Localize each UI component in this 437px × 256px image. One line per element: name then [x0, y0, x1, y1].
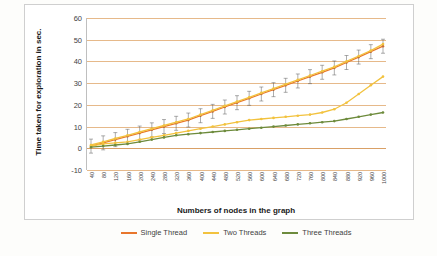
legend-label: Two Threads [223, 228, 266, 237]
data-point [382, 75, 385, 78]
x-axis-tick-label: 880 [345, 172, 351, 190]
data-point [260, 92, 263, 95]
x-axis-tick-label: 360 [186, 172, 192, 190]
data-point [370, 84, 373, 87]
data-point [260, 126, 263, 129]
x-axis-tick-label: 480 [223, 172, 229, 190]
x-axis-tick-label: 680 [284, 172, 290, 190]
data-point [321, 121, 324, 124]
data-point [309, 113, 312, 116]
data-point [345, 60, 348, 63]
data-point [357, 55, 360, 58]
data-point [345, 118, 348, 121]
data-point [309, 74, 312, 77]
data-point [321, 70, 324, 73]
data-point [248, 119, 251, 122]
x-axis-tick-label: 720 [296, 172, 302, 190]
data-point [224, 130, 227, 133]
data-point [114, 144, 117, 147]
data-point [284, 124, 287, 127]
y-axis-tick-label: 30 [74, 79, 82, 88]
gridline [87, 170, 386, 171]
y-axis-tick-label: -10 [71, 166, 82, 175]
data-point [187, 133, 190, 136]
data-point [321, 111, 324, 114]
data-point [333, 66, 336, 69]
y-axis-tick-label: 40 [74, 57, 82, 66]
legend-item[interactable]: Two Threads [203, 228, 266, 237]
y-axis-tick-label: 60 [74, 14, 82, 23]
x-axis-tick-label: 1000 [381, 172, 387, 190]
x-axis-title: Numbers of nodes in the graph [86, 206, 386, 215]
x-axis-tick-label: 400 [199, 172, 205, 190]
data-point [236, 100, 239, 103]
data-point [272, 87, 275, 90]
legend-item[interactable]: Single Thread [121, 228, 188, 237]
data-point [357, 116, 360, 119]
y-axis-tick-label: 10 [74, 122, 82, 131]
x-axis-tick-label: 560 [247, 172, 253, 190]
x-axis-tick-label: 280 [162, 172, 168, 190]
data-point [345, 101, 348, 104]
data-point [297, 114, 300, 117]
data-point [187, 130, 190, 133]
data-point [333, 120, 336, 123]
data-point [333, 108, 336, 111]
x-axis-tick-label: 120 [113, 172, 119, 190]
data-point [236, 129, 239, 132]
x-axis-tick-label: 760 [308, 172, 314, 190]
x-axis-tick-label: 200 [138, 172, 144, 190]
data-point [357, 93, 360, 96]
data-point [211, 125, 214, 128]
plot-area: -100102030405060 40801201602002402803203… [86, 18, 386, 170]
legend-label: Single Thread [141, 228, 188, 237]
y-axis-tick-label: 50 [74, 35, 82, 44]
data-point [382, 111, 385, 114]
data-point [211, 109, 214, 112]
x-axis-tick-label: 600 [259, 172, 265, 190]
x-axis-tick-label: 320 [174, 172, 180, 190]
data-point [260, 118, 263, 121]
data-point [224, 105, 227, 108]
data-point [272, 125, 275, 128]
data-point [114, 137, 117, 140]
legend-label: Three Threads [302, 228, 351, 237]
legend-item[interactable]: Three Threads [282, 228, 351, 237]
data-point [284, 116, 287, 119]
data-point [370, 49, 373, 52]
series-line [91, 77, 383, 147]
data-point [248, 96, 251, 99]
data-point [163, 136, 166, 139]
x-axis-tick-label: 840 [332, 172, 338, 190]
data-point [309, 122, 312, 125]
legend-swatch-icon [282, 232, 298, 234]
data-point [382, 43, 385, 46]
x-axis-tick-label: 520 [235, 172, 241, 190]
data-point [272, 117, 275, 120]
x-axis-tick-label: 240 [150, 172, 156, 190]
data-point [199, 132, 202, 135]
y-axis-title: Time taken for exploration in sec. [34, 12, 43, 172]
data-point [284, 83, 287, 86]
data-point [126, 134, 129, 137]
data-point [163, 124, 166, 127]
data-point [138, 141, 141, 144]
chart-container: Time taken for exploration in sec. Numbe… [0, 0, 437, 256]
x-axis-tick-label: 160 [126, 172, 132, 190]
data-point [236, 121, 239, 124]
data-point [199, 113, 202, 116]
data-point [211, 131, 214, 134]
data-point [224, 123, 227, 126]
data-point [248, 127, 251, 130]
chart-legend: Single ThreadTwo ThreadsThree Threads [86, 228, 386, 237]
data-point [90, 146, 93, 149]
data-point [102, 145, 105, 148]
data-point [138, 131, 141, 134]
x-axis-tick-label: 640 [272, 172, 278, 190]
data-point [370, 113, 373, 116]
data-point [151, 127, 154, 130]
x-axis-tick-label: 440 [211, 172, 217, 190]
data-point [126, 143, 129, 146]
legend-swatch-icon [121, 232, 137, 234]
x-axis-tick-label: 800 [320, 172, 326, 190]
